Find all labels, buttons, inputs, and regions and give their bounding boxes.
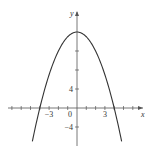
x-tick-label: 0 bbox=[68, 110, 72, 119]
x-axis-label: x bbox=[140, 110, 145, 119]
parabola-chart: −3034−4 x y bbox=[0, 0, 149, 150]
y-axis-label: y bbox=[69, 9, 74, 18]
tick-labels: −3034−4 bbox=[45, 85, 107, 132]
y-axis-arrow-icon bbox=[75, 11, 79, 16]
x-tick-label: −3 bbox=[45, 110, 54, 119]
y-tick-label: 4 bbox=[69, 85, 73, 94]
axes bbox=[8, 11, 143, 146]
x-tick-label: 3 bbox=[103, 110, 107, 119]
y-tick-label: −4 bbox=[64, 123, 73, 132]
